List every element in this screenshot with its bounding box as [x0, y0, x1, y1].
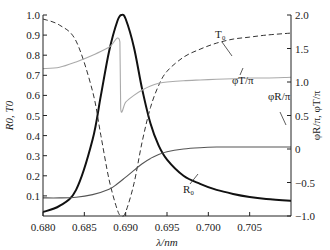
x-axis-title: λ/nm — [155, 236, 177, 248]
curves — [43, 15, 291, 217]
curve-r0 — [43, 15, 291, 212]
labels: λ/nmR0, T0φR/π, φT/πT₀φT/πφR/πR₀ — [3, 28, 322, 248]
curve-phir-pi — [43, 147, 291, 198]
y-left-tick-label: 0.9 — [26, 29, 40, 41]
curve-annotation: φT/π — [232, 74, 254, 86]
y-left-axis-title: R0, T0 — [3, 100, 15, 131]
y-right-axis-title: φR/π, φT/π — [310, 90, 322, 140]
x-tick-label: 0.705 — [237, 221, 262, 233]
curve-annotation: T₀ — [215, 28, 226, 40]
y-left-tick-label: 0.5 — [26, 110, 40, 122]
y-left-tick-label: 1.0 — [26, 9, 40, 21]
y-right-tick-label: −0.5 — [295, 177, 315, 189]
curve-phit-pi — [43, 38, 291, 112]
curve-t0 — [43, 19, 291, 216]
y-left-tick-label: 0.1 — [26, 190, 40, 202]
chart-container: 0.6800.6850.6900.6950.7000.7050.10.20.30… — [0, 0, 330, 250]
line-chart: 0.6800.6850.6900.6950.7000.7050.10.20.30… — [0, 0, 330, 250]
x-tick-label: 0.680 — [31, 221, 56, 233]
y-left-tick-label: 0.6 — [26, 89, 40, 101]
x-tick-label: 0.690 — [113, 221, 138, 233]
y-left-tick-label: 0.2 — [26, 170, 40, 182]
x-tick-label: 0.685 — [72, 221, 97, 233]
x-tick-label: 0.700 — [196, 221, 221, 233]
y-right-tick-label: 0 — [295, 143, 301, 155]
y-left-tick-label: 0.8 — [26, 49, 40, 61]
x-tick-label: 0.695 — [155, 221, 180, 233]
y-right-tick-label: 2.0 — [295, 9, 309, 21]
y-left-tick-label: 0.4 — [26, 130, 40, 142]
y-right-tick-label: 1.0 — [295, 76, 309, 88]
y-right-tick-label: 1.5 — [295, 43, 309, 55]
y-right-tick-label: 0.5 — [295, 110, 309, 122]
curve-annotation: R₀ — [183, 183, 194, 195]
y-left-tick-label: 0.3 — [26, 150, 40, 162]
y-right-tick-label: −1.0 — [295, 210, 315, 222]
y-left-tick-label: 0.7 — [26, 69, 40, 81]
curve-annotation: φR/π — [268, 90, 291, 102]
